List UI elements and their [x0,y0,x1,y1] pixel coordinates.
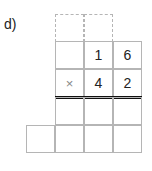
carry-cell-2[interactable] [84,14,113,42]
multiplicand-cell-1 [55,41,84,69]
multiplicand-cell-2: 1 [84,41,113,69]
multiplicand-cell-3: 6 [113,41,142,69]
result-cell-3[interactable] [84,125,113,153]
multiply-operator-icon: × [55,69,84,97]
problem-label: d) [4,16,16,32]
partial-product-cell-1[interactable] [55,97,84,125]
partial-product-cell-3[interactable] [113,97,142,125]
partial-product-cell-2[interactable] [84,97,113,125]
result-cell-2[interactable] [55,125,84,153]
result-cell-1[interactable] [26,125,55,153]
multiplier-cell-2: 2 [113,69,142,97]
carry-cell-1[interactable] [55,14,84,42]
result-cell-4[interactable] [113,125,142,153]
multiplier-cell-1: 4 [84,69,113,97]
